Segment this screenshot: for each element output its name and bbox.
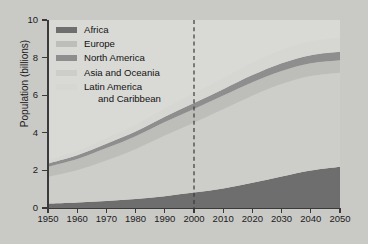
chart-screenshot: 0246810 19501960197019801990200020102020… <box>0 0 368 244</box>
legend-label: Europe <box>84 38 115 49</box>
x-axis-tick-label: 2050 <box>323 214 357 224</box>
y-axis-tick <box>42 132 47 133</box>
y-axis-tick <box>42 57 47 58</box>
y-axis-line <box>47 20 49 209</box>
y-axis-tick-label: 0 <box>14 203 38 213</box>
legend-swatch <box>56 27 77 33</box>
legend-label: North America <box>84 52 145 63</box>
legend-label: Latin America <box>84 81 142 92</box>
legend-swatch <box>56 84 77 90</box>
y-axis-tick <box>42 19 47 20</box>
y-axis-tick <box>42 95 47 96</box>
legend-label: Asia and Oceania <box>84 67 160 78</box>
y-axis-tick <box>42 207 47 208</box>
legend-item: North America <box>56 52 180 66</box>
legend-swatch <box>56 70 77 76</box>
legend-swatch <box>56 55 77 61</box>
legend-item: Europe <box>56 38 180 52</box>
y-axis-title: Population (billions) <box>19 19 30 149</box>
legend-label: Africa <box>84 24 109 35</box>
legend-item: Asia and Oceania <box>56 67 180 81</box>
legend-label-continued: and Caribbean <box>98 93 180 104</box>
chart-legend: AfricaEuropeNorth AmericaAsia and Oceani… <box>56 24 180 104</box>
legend-swatch <box>56 41 77 47</box>
legend-item: Africa <box>56 24 180 38</box>
y-axis-tick <box>42 170 47 171</box>
y-axis-tick-label: 2 <box>14 165 38 175</box>
